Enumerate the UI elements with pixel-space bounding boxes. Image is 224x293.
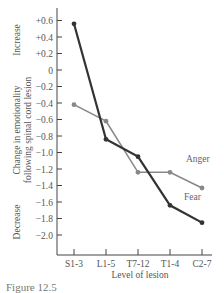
series-line-fear <box>74 24 202 223</box>
data-point <box>104 119 109 124</box>
y-tick-label: +0.2 <box>36 49 53 59</box>
y-tick-label: −0.8 <box>36 132 53 142</box>
y-decrease-label: Decrease <box>12 205 22 240</box>
y-tick-label: 0 <box>48 66 53 76</box>
y-tick-label: +0.6 <box>36 16 53 26</box>
data-point <box>136 170 141 175</box>
x-tick-label: L1-5 <box>97 259 116 269</box>
data-point <box>136 154 141 159</box>
data-point <box>168 203 173 208</box>
y-tick-label: −2.0 <box>36 231 53 241</box>
y-tick-label: +0.4 <box>36 33 53 43</box>
y-axis: +0.6+0.4+0.20−0.2−0.4−0.6−0.8−1.0−1.2−1.… <box>36 8 62 255</box>
y-increase-label: Increase <box>12 24 22 56</box>
data-point <box>72 21 77 26</box>
y-tick-label: −1.0 <box>36 148 53 158</box>
series-label-anger: Anger <box>186 154 211 164</box>
x-axis-title: Level of lesion <box>112 270 169 280</box>
series-group: AngerFear <box>72 21 211 225</box>
y-axis-title-line1: Change in emotionality <box>12 85 22 174</box>
y-tick-label: −0.6 <box>36 115 53 125</box>
series-line-anger <box>74 105 202 188</box>
data-point <box>168 170 173 175</box>
x-tick-label: T7-12 <box>126 259 149 269</box>
y-tick-label: −0.4 <box>36 99 53 109</box>
data-point <box>200 186 205 191</box>
series-label-fear: Fear <box>184 192 202 202</box>
data-point <box>200 220 205 225</box>
data-point <box>104 137 109 142</box>
x-tick-label: C2-7 <box>193 259 212 269</box>
x-axis: S1-3L1-5T7-12T1-4C2-7 <box>57 249 212 269</box>
y-tick-label: −1.2 <box>36 165 53 175</box>
y-tick-label: −1.6 <box>36 198 53 208</box>
y-tick-label: −0.2 <box>36 82 53 92</box>
y-tick-label: −1.8 <box>36 214 53 224</box>
data-point <box>72 102 77 107</box>
y-tick-label: −1.4 <box>36 181 53 191</box>
y-axis-title-line2: following spinal cord lesion <box>23 77 33 184</box>
x-tick-label: S1-3 <box>65 259 83 269</box>
figure-caption: Figure 12.5 <box>6 281 57 293</box>
x-tick-label: T1-4 <box>161 259 180 269</box>
